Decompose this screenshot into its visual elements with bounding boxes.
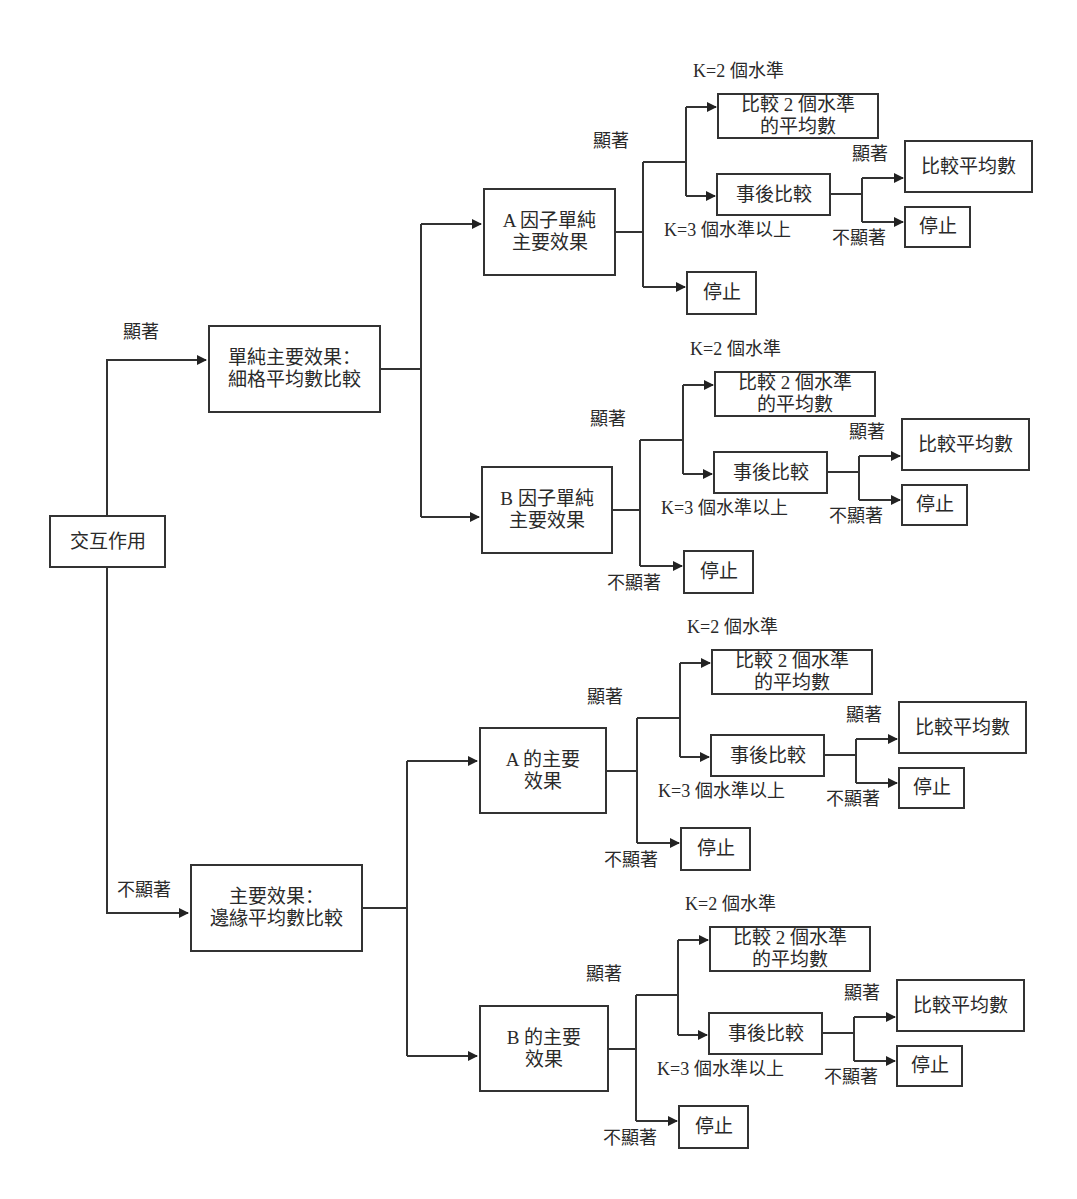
edge-label-k3: K=3 個水準以上 xyxy=(664,220,791,240)
simple-main-effects-node: 單純主要效果： 細格平均數比較 xyxy=(208,325,381,413)
edge-label-not-significant: 不顯著 xyxy=(832,228,886,248)
stop-node: 停止 xyxy=(898,767,965,809)
edge-label-significant: 顯著 xyxy=(852,144,888,164)
post-hoc-label: 事後比較 xyxy=(736,184,812,206)
compare-means-label: 比較平均數 xyxy=(913,995,1008,1017)
edge-label-not-significant: 不顯著 xyxy=(829,506,883,526)
stop-label: 停止 xyxy=(916,494,954,516)
stop-node: 停止 xyxy=(686,271,757,315)
edge-label-not-significant: 不顯著 xyxy=(117,880,171,900)
factor-node-label: A 的主要 效果 xyxy=(506,749,580,793)
stop-node: 停止 xyxy=(896,1045,963,1087)
edge-label-k2: K=2 個水準 xyxy=(690,339,781,359)
post-hoc-label: 事後比較 xyxy=(728,1023,804,1045)
edge-label-significant: 顯著 xyxy=(123,322,159,342)
main-effects-label: 主要效果： 邊緣平均數比較 xyxy=(210,886,343,930)
compare-two-levels-label: 比較 2 個水準 的平均數 xyxy=(735,650,849,694)
stop-label: 停止 xyxy=(919,216,957,238)
factor-node-label: B 因子單純 主要效果 xyxy=(500,488,593,532)
post-hoc-node: 事後比較 xyxy=(716,173,831,216)
compare-two-levels-node: 比較 2 個水準 的平均數 xyxy=(711,649,873,695)
stop-label: 停止 xyxy=(697,838,735,860)
factor-node: A 的主要 效果 xyxy=(479,727,607,814)
stop-label: 停止 xyxy=(703,282,741,304)
compare-means-label: 比較平均數 xyxy=(915,717,1010,739)
stop-label: 停止 xyxy=(913,777,951,799)
post-hoc-label: 事後比較 xyxy=(730,745,806,767)
factor-node: A 因子單純 主要效果 xyxy=(483,188,616,276)
compare-two-levels-node: 比較 2 個水準 的平均數 xyxy=(709,926,871,972)
compare-means-node: 比較平均數 xyxy=(904,140,1033,193)
stop-node: 停止 xyxy=(683,550,754,594)
edge-label-not-significant: 不顯著 xyxy=(604,850,658,870)
post-hoc-node: 事後比較 xyxy=(708,1012,823,1055)
edge-label-significant: 顯著 xyxy=(590,409,626,429)
stop-label: 停止 xyxy=(700,561,738,583)
edge-label-significant: 顯著 xyxy=(844,983,880,1003)
edge-label-not-significant: 不顯著 xyxy=(826,789,880,809)
stop-node: 停止 xyxy=(901,484,968,526)
main-effects-node: 主要效果： 邊緣平均數比較 xyxy=(190,864,363,952)
root-node-label: 交互作用 xyxy=(70,531,146,553)
compare-two-levels-node: 比較 2 個水準 的平均數 xyxy=(717,93,879,139)
compare-two-levels-node: 比較 2 個水準 的平均數 xyxy=(714,371,876,417)
stop-label: 停止 xyxy=(911,1055,949,1077)
compare-two-levels-label: 比較 2 個水準 的平均數 xyxy=(741,94,855,138)
edge-label-k3: K=3 個水準以上 xyxy=(657,1059,784,1079)
compare-means-node: 比較平均數 xyxy=(901,418,1030,471)
factor-node-label: B 的主要 效果 xyxy=(507,1027,581,1071)
simple-main-effects-label: 單純主要效果： 細格平均數比較 xyxy=(228,347,361,391)
edge-label-significant: 顯著 xyxy=(593,131,629,151)
compare-means-label: 比較平均數 xyxy=(918,434,1013,456)
factor-node: B 的主要 效果 xyxy=(479,1005,609,1092)
stop-node: 停止 xyxy=(678,1105,749,1149)
edge-label-significant: 顯著 xyxy=(587,687,623,707)
compare-means-label: 比較平均數 xyxy=(921,156,1016,178)
edge-label-k3: K=3 個水準以上 xyxy=(658,781,785,801)
compare-means-node: 比較平均數 xyxy=(896,979,1025,1032)
edge-label-not-significant: 不顯著 xyxy=(603,1128,657,1148)
edge-label-significant: 顯著 xyxy=(846,705,882,725)
edge-label-k3: K=3 個水準以上 xyxy=(661,498,788,518)
edge-label-k2: K=2 個水準 xyxy=(685,894,776,914)
edge-label-significant: 顯著 xyxy=(849,422,885,442)
post-hoc-node: 事後比較 xyxy=(710,734,825,777)
edge-label-significant: 顯著 xyxy=(586,964,622,984)
factor-node: B 因子單純 主要效果 xyxy=(481,466,613,554)
edge-label-k2: K=2 個水準 xyxy=(687,617,778,637)
stop-label: 停止 xyxy=(695,1116,733,1138)
post-hoc-label: 事後比較 xyxy=(733,462,809,484)
stop-node: 停止 xyxy=(680,827,751,871)
stop-node: 停止 xyxy=(904,206,971,248)
edge-label-k2: K=2 個水準 xyxy=(693,61,784,81)
edge-label-not-significant: 不顯著 xyxy=(824,1067,878,1087)
factor-node-label: A 因子單純 主要效果 xyxy=(503,210,596,254)
compare-two-levels-label: 比較 2 個水準 的平均數 xyxy=(738,372,852,416)
compare-means-node: 比較平均數 xyxy=(898,701,1027,754)
edge-label-not-significant: 不顯著 xyxy=(607,573,661,593)
post-hoc-node: 事後比較 xyxy=(713,451,828,494)
compare-two-levels-label: 比較 2 個水準 的平均數 xyxy=(733,927,847,971)
root-node: 交互作用 xyxy=(49,515,166,568)
